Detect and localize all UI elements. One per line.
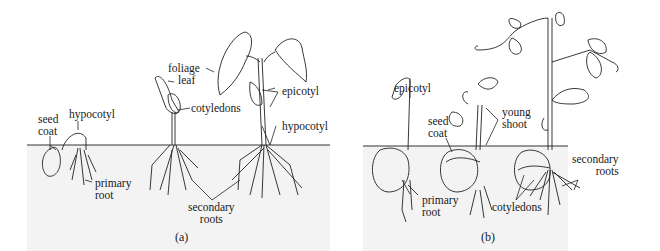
- caption-b: (b): [481, 230, 495, 245]
- label-line: shoot: [502, 118, 531, 130]
- label-line: root: [95, 189, 131, 201]
- label-epicotyl-a: epicotyl: [282, 85, 319, 97]
- label-cotyledons-a: cotyledons: [191, 102, 241, 114]
- label-line: primary: [422, 194, 458, 206]
- label-cotyledons-b: cotyledons: [492, 201, 542, 213]
- label-line: primary: [95, 177, 131, 189]
- label-young-shoot-b: young shoot: [502, 106, 531, 130]
- label-primary-root-a: primary root: [95, 177, 131, 201]
- label-line: root: [422, 206, 458, 218]
- label-line: young: [502, 106, 531, 118]
- label-secondary-roots-a: secondary roots: [188, 201, 235, 225]
- label-line: seed: [38, 113, 58, 125]
- label-line: secondary: [188, 201, 235, 213]
- label-line: coat: [428, 127, 448, 139]
- label-line: roots: [572, 165, 619, 177]
- label-line: leaf: [168, 74, 200, 86]
- label-line: secondary: [572, 153, 619, 165]
- label-seed-coat-b: seed coat: [428, 115, 448, 139]
- label-line: seed: [428, 115, 448, 127]
- label-primary-root-b: primary root: [422, 194, 458, 218]
- label-hypocotyl-a1: hypocotyl: [69, 108, 115, 120]
- label-line: coat: [38, 125, 58, 137]
- label-hypocotyl-a2: hypocotyl: [282, 120, 328, 132]
- label-epicotyl-b: epicotyl: [394, 82, 431, 94]
- label-secondary-roots-b: secondary roots: [572, 153, 619, 177]
- soil-b: [363, 146, 568, 251]
- label-foliage-leaf-a: foliage leaf: [168, 62, 200, 86]
- seed-germination-illustration: [0, 0, 660, 251]
- caption-a: (a): [175, 230, 188, 245]
- label-line: roots: [188, 213, 235, 225]
- label-line: foliage: [168, 62, 200, 74]
- label-seed-coat-a: seed coat: [38, 113, 58, 137]
